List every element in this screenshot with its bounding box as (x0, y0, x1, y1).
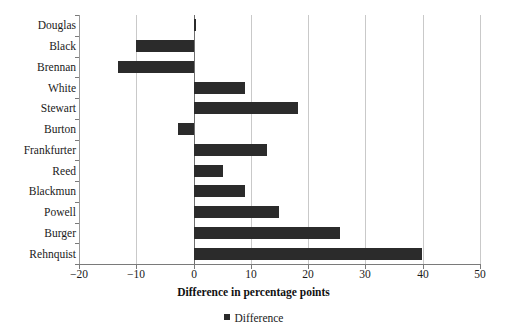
x-axis-tick-label: 30 (345, 268, 385, 281)
y-axis-category-label: Blackmun (29, 185, 76, 197)
chart-legend: Difference (0, 311, 507, 324)
y-axis-category-label: Burton (44, 123, 76, 135)
legend-swatch-difference (224, 314, 230, 320)
x-axis-tick-label: −20 (59, 268, 99, 281)
x-axis-tick-label: 0 (174, 268, 214, 281)
y-axis-category-label: Reed (52, 165, 76, 177)
x-axis-tick-label: 50 (460, 268, 500, 281)
x-axis-tick-labels: −20−1001020304050 (79, 0, 480, 334)
x-axis-tick-label: 40 (403, 268, 443, 281)
x-axis-tick-label: 20 (288, 268, 328, 281)
x-axis-title: Difference in percentage points (0, 286, 507, 298)
bar-chart: DouglasBlackBrennanWhiteStewartBurtonFra… (0, 0, 507, 334)
y-axis-category-label: Black (49, 40, 76, 52)
y-axis-category-label: Burger (44, 227, 76, 239)
y-axis-category-label: Stewart (41, 102, 76, 114)
y-axis-category-label: Brennan (37, 61, 76, 73)
y-axis-category-label: Douglas (38, 19, 76, 31)
x-axis-tick-label: 10 (231, 268, 271, 281)
gridline (480, 15, 481, 264)
y-axis-category-label: White (48, 82, 76, 94)
y-axis-category-labels: DouglasBlackBrennanWhiteStewartBurtonFra… (0, 15, 76, 264)
y-axis-category-label: Frankfurter (24, 144, 76, 156)
y-axis-category-label: Powell (44, 206, 76, 218)
legend-label-difference: Difference (235, 312, 284, 324)
x-axis-tick-label: −10 (116, 268, 156, 281)
y-axis-category-label: Rehnquist (29, 248, 76, 260)
